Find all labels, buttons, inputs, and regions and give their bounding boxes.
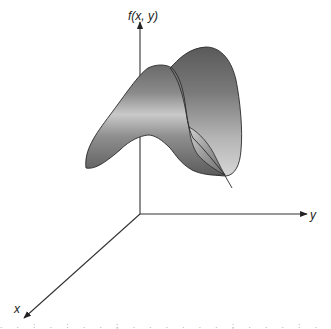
z-axis-label: f(x, y) bbox=[128, 9, 158, 23]
surface-plot-figure: f(x, y) y x bbox=[0, 0, 331, 329]
x-axis-label: x bbox=[13, 302, 21, 316]
surface-tail-line bbox=[224, 174, 232, 188]
cut-off-text-strip: . . : . : . . ; . . . . . . ; . . . : . … bbox=[0, 321, 331, 329]
y-axis-label: y bbox=[309, 208, 317, 222]
x-axis bbox=[24, 214, 140, 318]
